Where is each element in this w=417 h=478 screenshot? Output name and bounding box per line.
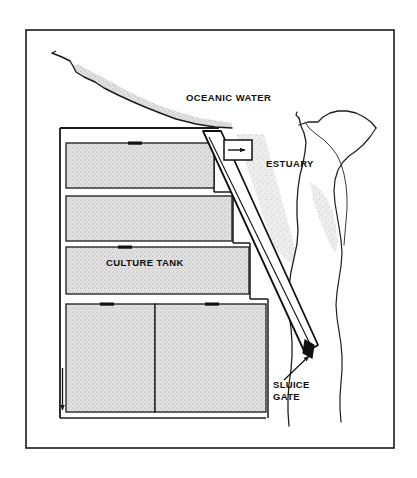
label-culture-tank: CULTURE TANK (106, 257, 184, 268)
culture-tank-1[interactable] (66, 143, 214, 188)
diagram-canvas: OCEANIC WATER ESTUARY CULTURE TANK SLUIC… (0, 0, 417, 478)
culture-tank-3[interactable] (66, 247, 249, 294)
label-estuary: ESTUARY (266, 158, 314, 169)
tank-inlet-mark-4a (100, 303, 114, 306)
tank-inlet-mark-1 (128, 142, 142, 145)
label-sluice-gate-line2: GATE (273, 391, 300, 402)
tank-inlet-mark-3 (118, 246, 132, 249)
figure-root: OCEANIC WATER ESTUARY CULTURE TANK SLUIC… (0, 0, 417, 478)
tank-inlet-mark-4b (205, 303, 219, 306)
culture-tank-4-left[interactable] (66, 304, 155, 412)
label-oceanic-water: OCEANIC WATER (186, 92, 271, 103)
culture-tank-4-right[interactable] (155, 304, 266, 412)
culture-tank-2[interactable] (66, 196, 232, 241)
label-sluice-gate-line1: SLUICE (273, 379, 310, 390)
